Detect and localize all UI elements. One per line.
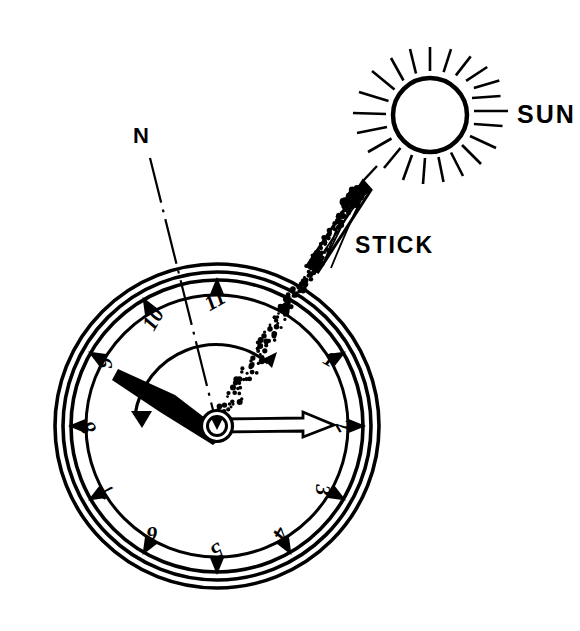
sun-ray-dot	[240, 370, 243, 373]
sun-rays	[353, 47, 508, 184]
watch-sun-diagram: 1234567891011	[0, 0, 580, 631]
sun-ray-dot	[278, 304, 283, 309]
figure-canvas: 1234567891011 SUN STICK N	[0, 0, 580, 631]
sun-ray-dot	[290, 286, 296, 292]
sun-ray-dot	[340, 220, 344, 224]
sun-ray-dot	[226, 391, 230, 395]
sun-ray-dot	[259, 353, 262, 356]
sun-ray-dot	[269, 324, 272, 327]
sun-ray-dot	[262, 348, 267, 353]
sun-ray-dot	[263, 330, 266, 333]
sun-disc	[393, 78, 467, 152]
sun-ray-dot	[313, 264, 316, 267]
sun-ray-dot	[318, 260, 322, 264]
sun-ray-dot	[255, 371, 259, 375]
sun-ray-dot	[230, 406, 233, 409]
sun-ray-dot	[226, 395, 229, 398]
sun-ray-dot	[250, 355, 255, 360]
sun-ray-dot	[321, 235, 326, 240]
sun-ray-dot	[261, 333, 266, 338]
north-label: N	[133, 123, 149, 149]
sun-icon	[353, 47, 508, 184]
sun-ray-dot	[286, 292, 291, 297]
sun-ray-dot	[356, 190, 362, 196]
sun-ray-dot	[217, 403, 223, 409]
sun-ray-dot	[319, 242, 322, 245]
sun-ray-dot	[246, 372, 249, 375]
sun-ray-dot	[230, 399, 234, 403]
sun-ray-dot	[274, 324, 280, 330]
sun-ray-dot	[335, 218, 341, 224]
sun-ray-dot	[319, 246, 323, 250]
sun-ray-dot	[279, 326, 282, 329]
sun-ray-dot	[226, 407, 230, 411]
dial-numeral: 5	[206, 538, 228, 565]
sun-ray-dot	[237, 392, 241, 396]
sun-ray-dot	[289, 304, 294, 309]
sun-ray-dot	[273, 338, 277, 342]
sun-ray-dot	[247, 376, 252, 381]
sun-ray-dot	[332, 237, 335, 240]
sun-ray-dot	[240, 397, 243, 400]
sun-ray-dot	[283, 314, 286, 317]
sun-ray-dot	[307, 270, 311, 274]
sun-ray-dot	[271, 331, 277, 337]
hand-hub	[202, 411, 233, 442]
sun-ray-dot	[325, 247, 330, 252]
sun-ray-dot	[335, 231, 338, 234]
sun-label: SUN	[517, 100, 576, 129]
dial-numeral: 10	[137, 303, 170, 335]
sun-ray-dot	[348, 200, 355, 207]
sun-ray-dot	[304, 264, 308, 268]
sun-ray-dot	[238, 386, 242, 390]
sun-ray-dot	[277, 312, 280, 315]
sun-ray-dot	[222, 402, 227, 407]
sun-ray-dot	[240, 366, 244, 370]
sun-ray-dot	[283, 318, 286, 321]
sun-ray-dot	[232, 390, 237, 395]
sun-ray-dot	[303, 276, 306, 279]
sun-ray-dot	[311, 270, 316, 275]
sun-ray-dot	[267, 339, 271, 343]
sun-ray-dot	[237, 376, 243, 382]
dial-numeral: 11	[200, 284, 231, 316]
dial-numeral: 9	[92, 358, 117, 369]
sun-ray-dot	[327, 228, 332, 233]
stick-top-extension	[363, 166, 377, 181]
sun-ray-dot	[276, 315, 280, 319]
stick-label: STICK	[355, 232, 434, 259]
dial-numeral: 3	[311, 484, 336, 496]
sun-ray-dot	[250, 370, 255, 375]
dial-numeral: 6	[147, 522, 158, 547]
sun-ray-dot	[312, 259, 315, 262]
sun-ray-dot	[349, 194, 355, 200]
angle-arc-arrowhead	[131, 411, 152, 428]
sun-ray-dot	[309, 277, 314, 282]
sun-ray-dot	[349, 187, 356, 194]
